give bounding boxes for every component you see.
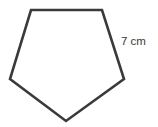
side-length-label: 7 cm [121, 36, 146, 48]
pentagon-shape [10, 10, 124, 121]
pentagon-diagram [0, 0, 158, 127]
